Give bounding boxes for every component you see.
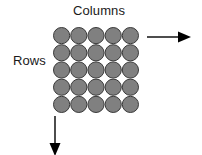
sphere bbox=[71, 62, 87, 78]
rows-label: Rows bbox=[13, 54, 46, 67]
sphere bbox=[88, 79, 104, 95]
sphere-grid-svg bbox=[53, 27, 139, 113]
sphere bbox=[71, 28, 87, 44]
sphere bbox=[88, 45, 104, 61]
sphere bbox=[54, 62, 70, 78]
right-arrow-head bbox=[178, 32, 191, 43]
figure-container: Columns Rows bbox=[0, 0, 202, 155]
sphere bbox=[122, 79, 138, 95]
sphere bbox=[54, 79, 70, 95]
column-direction-arrow-icon bbox=[146, 27, 198, 47]
sphere bbox=[105, 62, 121, 78]
sphere bbox=[105, 45, 121, 61]
sphere bbox=[105, 79, 121, 95]
sphere bbox=[71, 45, 87, 61]
sphere bbox=[71, 79, 87, 95]
sphere bbox=[54, 28, 70, 44]
sphere bbox=[88, 62, 104, 78]
sphere-grid bbox=[53, 27, 139, 113]
sphere bbox=[122, 62, 138, 78]
sphere bbox=[122, 45, 138, 61]
sphere bbox=[105, 96, 121, 112]
sphere bbox=[88, 96, 104, 112]
sphere bbox=[71, 96, 87, 112]
sphere bbox=[54, 45, 70, 61]
sphere bbox=[88, 28, 104, 44]
sphere bbox=[105, 28, 121, 44]
sphere bbox=[122, 96, 138, 112]
sphere-layer bbox=[54, 28, 139, 113]
columns-label: Columns bbox=[73, 4, 125, 17]
row-direction-arrow-icon bbox=[45, 115, 65, 155]
sphere bbox=[54, 96, 70, 112]
down-arrow-head bbox=[50, 143, 61, 155]
sphere bbox=[122, 28, 138, 44]
